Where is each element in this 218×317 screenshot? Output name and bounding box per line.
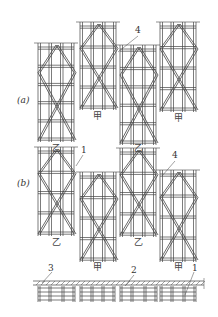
b-frame-2-type: 甲 bbox=[93, 263, 102, 272]
panel-a-label: (a) bbox=[17, 96, 29, 105]
b-frame-1-type: 乙 bbox=[52, 238, 61, 247]
panel-b-frame-2 bbox=[76, 172, 120, 262]
plan-callout-1: 1 bbox=[192, 264, 198, 273]
plan-callout-3: 3 bbox=[48, 264, 54, 273]
panel-a-frame-3 bbox=[116, 45, 160, 145]
panel-a-frame-4 bbox=[156, 22, 200, 112]
b-callout-1: 1 bbox=[81, 146, 87, 155]
a-frame-2-type: 甲 bbox=[93, 112, 102, 121]
a-frame-1-type: 乙 bbox=[52, 144, 61, 153]
panel-b-frame-3 bbox=[116, 148, 160, 237]
plan-view bbox=[33, 278, 205, 302]
b-frame-3-type: 乙 bbox=[134, 238, 143, 247]
a-frame-3-type: 乙 bbox=[134, 144, 143, 153]
panel-a-frame-1 bbox=[34, 43, 78, 142]
b-frame-4-type: 甲 bbox=[174, 263, 183, 272]
panel-a-frame-2 bbox=[76, 22, 120, 110]
a-callout-4: 4 bbox=[135, 26, 141, 35]
panel-b-frame-4 bbox=[156, 170, 200, 262]
scaffold-frame-diagram bbox=[0, 0, 218, 317]
panel-b-frame-1 bbox=[34, 147, 78, 236]
panel-b-label: (b) bbox=[17, 179, 30, 188]
b-callout-4: 4 bbox=[172, 151, 178, 160]
plan-callout-2: 2 bbox=[131, 266, 137, 275]
a-frame-4-type: 甲 bbox=[174, 114, 183, 123]
